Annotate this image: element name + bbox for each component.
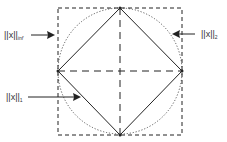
norm-diagram: ||x||inf ||x||2 ||x||1 (0, 0, 227, 142)
arrow-two (172, 30, 195, 38)
two-norm-label: ||x||2 (201, 29, 218, 40)
arrow-inf (31, 31, 55, 39)
vertex-top (119, 7, 122, 10)
inf-norm-label: ||x||inf (4, 30, 24, 41)
vertex-bottom (119, 134, 122, 137)
one-norm-label: ||x||1 (6, 92, 23, 103)
vertex-right (181, 70, 184, 73)
vertex-left (57, 70, 60, 73)
arrow-one (28, 93, 81, 101)
